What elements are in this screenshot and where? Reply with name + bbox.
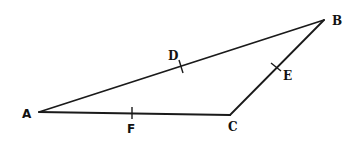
triangle-diagram: A B C D E F	[0, 0, 352, 146]
label-a: A	[22, 107, 32, 121]
label-d: D	[168, 49, 178, 63]
label-c: C	[228, 120, 238, 134]
label-f: F	[127, 122, 135, 136]
label-b: B	[332, 14, 342, 28]
edge-ac	[39, 112, 230, 115]
label-e: E	[283, 69, 292, 83]
